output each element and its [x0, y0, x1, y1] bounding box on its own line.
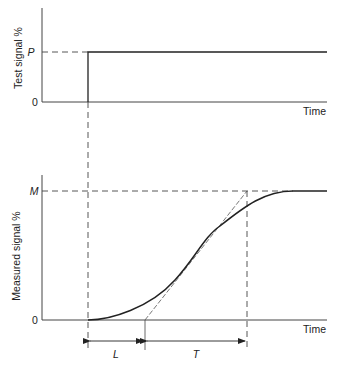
test-signal-panel: P 0 Time Test signal % — [12, 8, 327, 117]
measured-ylabel: Measured signal % — [10, 211, 22, 300]
tick-m: M — [30, 185, 39, 197]
response-curve — [88, 191, 327, 320]
process-reaction-diagram: P 0 Time Test signal % M 0 Time Measured… — [0, 0, 348, 369]
dim-t-label: T — [193, 348, 201, 360]
measured-tick-zero: 0 — [32, 314, 38, 326]
test-xlabel: Time — [303, 105, 326, 117]
test-ylabel: Test signal % — [12, 27, 24, 89]
step-input-line — [88, 52, 327, 102]
dim-l-label: L — [113, 348, 119, 360]
tangent-line — [145, 191, 247, 320]
test-tick-zero: 0 — [32, 96, 38, 108]
measured-signal-panel: M 0 Time Measured signal % L T — [10, 175, 327, 360]
measured-xlabel: Time — [303, 323, 326, 335]
tick-p: P — [27, 46, 34, 58]
